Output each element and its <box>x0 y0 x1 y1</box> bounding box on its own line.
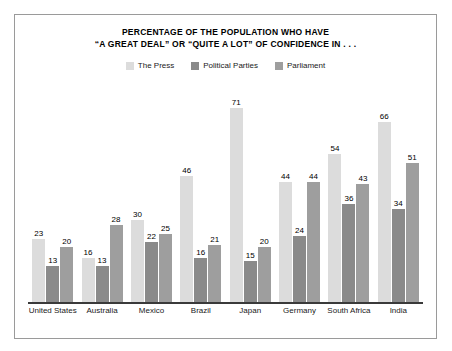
x-axis-category-label: United States <box>28 306 77 316</box>
bar <box>328 154 341 302</box>
bar-value-label: 21 <box>210 235 219 244</box>
bar-group: 543643 <box>324 87 373 302</box>
x-axis-category-label: Mexico <box>127 306 176 316</box>
bar-column: 71 <box>230 87 243 302</box>
bar-group: 161328 <box>77 87 126 302</box>
bar-column: 20 <box>60 87 73 302</box>
bar-column: 16 <box>194 87 207 302</box>
bar <box>131 220 144 302</box>
x-axis-category-label: Germany <box>275 306 324 316</box>
bar <box>32 239 45 302</box>
bar-group: 442444 <box>275 87 324 302</box>
bar-column: 34 <box>392 87 405 302</box>
legend-item-political-parties: Political Parties <box>191 61 258 70</box>
legend-swatch-icon-the-press <box>126 62 134 70</box>
bar-column: 54 <box>328 87 341 302</box>
bar <box>244 261 257 302</box>
chart-title: PERCENTAGE OF THE POPULATION WHO HAVE “A… <box>15 26 436 50</box>
legend-label-the-press: The Press <box>138 61 174 70</box>
bar-group: 302225 <box>127 87 176 302</box>
bar <box>145 242 158 302</box>
bar <box>208 245 221 302</box>
bar-value-label: 43 <box>358 174 367 183</box>
bar-column: 43 <box>356 87 369 302</box>
bar <box>82 258 95 302</box>
bar-column: 15 <box>244 87 257 302</box>
bar-group: 711520 <box>226 87 275 302</box>
x-axis-category-label: India <box>374 306 423 316</box>
chart-title-line-2: “A GREAT DEAL” OR “QUITE A LOT” OF CONFI… <box>15 38 436 50</box>
bar-group: 231320 <box>28 87 77 302</box>
x-axis-category-labels: United StatesAustraliaMexicoBrazilJapanG… <box>28 306 423 316</box>
bar-column: 24 <box>293 87 306 302</box>
bar <box>96 266 109 302</box>
bar-value-label: 44 <box>309 172 318 181</box>
x-axis-category-label: South Africa <box>324 306 373 316</box>
bar-value-label: 20 <box>260 237 269 246</box>
bar-value-label: 25 <box>161 224 170 233</box>
bar-column: 22 <box>145 87 158 302</box>
bar-column: 44 <box>279 87 292 302</box>
bar-value-label: 54 <box>330 144 339 153</box>
bar-value-label: 20 <box>62 237 71 246</box>
legend-label-political-parties: Political Parties <box>203 61 258 70</box>
bar <box>342 204 355 302</box>
bar-column: 30 <box>131 87 144 302</box>
bar-group: 461621 <box>176 87 225 302</box>
bar-column: 25 <box>159 87 172 302</box>
bar <box>293 236 306 302</box>
bar <box>356 184 369 302</box>
bar-value-label: 30 <box>133 210 142 219</box>
bar-column: 20 <box>258 87 271 302</box>
bar <box>279 182 292 302</box>
bar-column: 16 <box>82 87 95 302</box>
chart-figure: PERCENTAGE OF THE POPULATION WHO HAVE “A… <box>14 14 437 339</box>
bar <box>406 163 419 302</box>
bar-column: 21 <box>208 87 221 302</box>
bar-value-label: 22 <box>147 232 156 241</box>
bar <box>180 176 193 302</box>
bar-column: 66 <box>378 87 391 302</box>
bar <box>392 209 405 302</box>
bar <box>230 108 243 302</box>
chart-legend: The Press Political Parties Parliament <box>15 61 436 70</box>
bar-value-label: 34 <box>394 199 403 208</box>
x-axis-line <box>28 302 423 304</box>
bar-column: 13 <box>96 87 109 302</box>
bar-value-label: 46 <box>182 166 191 175</box>
plot-area: 2313201613283022254616217115204424445436… <box>28 87 423 302</box>
bar-value-label: 51 <box>408 153 417 162</box>
legend-item-parliament: Parliament <box>275 61 325 70</box>
bar-value-label: 15 <box>246 251 255 260</box>
bar-column: 44 <box>307 87 320 302</box>
bar <box>60 247 73 302</box>
legend-swatch-icon-parliament <box>275 62 283 70</box>
bar-value-label: 28 <box>112 215 121 224</box>
bar-value-label: 13 <box>98 256 107 265</box>
bar <box>378 122 391 302</box>
x-axis-category-label: Japan <box>226 306 275 316</box>
bar-column: 51 <box>406 87 419 302</box>
bar <box>110 225 123 302</box>
chart-title-line-1: PERCENTAGE OF THE POPULATION WHO HAVE <box>15 26 436 38</box>
bar-value-label: 16 <box>196 248 205 257</box>
bar-column: 13 <box>46 87 59 302</box>
bar-value-label: 44 <box>281 172 290 181</box>
bar-value-label: 24 <box>295 226 304 235</box>
bar-value-label: 13 <box>48 256 57 265</box>
bar-groups: 2313201613283022254616217115204424445436… <box>28 87 423 302</box>
bar <box>46 266 59 302</box>
bar-column: 23 <box>32 87 45 302</box>
bar-value-label: 36 <box>344 194 353 203</box>
bar-value-label: 16 <box>84 248 93 257</box>
bar <box>159 234 172 302</box>
x-axis-category-label: Australia <box>77 306 126 316</box>
legend-label-parliament: Parliament <box>287 61 325 70</box>
legend-item-the-press: The Press <box>126 61 174 70</box>
bar-column: 28 <box>110 87 123 302</box>
bar-value-label: 71 <box>232 98 241 107</box>
bar <box>194 258 207 302</box>
bar-group: 663451 <box>374 87 423 302</box>
bar-value-label: 23 <box>34 229 43 238</box>
x-axis-category-label: Brazil <box>176 306 225 316</box>
